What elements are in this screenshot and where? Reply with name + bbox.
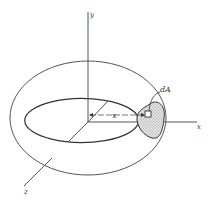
z-axis bbox=[68, 122, 88, 142]
area-element-square bbox=[145, 111, 151, 117]
y-axis-label: y bbox=[89, 11, 95, 19]
z-axis-back bbox=[88, 101, 108, 122]
area-element-label: dA bbox=[160, 85, 171, 94]
x-axis-label: x bbox=[197, 123, 201, 131]
torus-inner-edge bbox=[25, 99, 138, 143]
torus-diagram: y x z dA x bbox=[0, 0, 210, 201]
dimension-arrow-left bbox=[89, 113, 93, 117]
z-axis-label: z bbox=[23, 188, 28, 196]
distance-label: x bbox=[112, 111, 117, 120]
cross-section-area bbox=[137, 102, 164, 138]
